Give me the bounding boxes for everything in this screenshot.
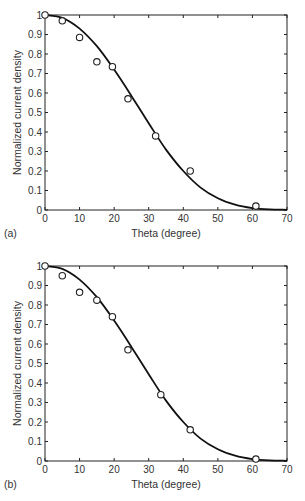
x-tick-label: 60 — [247, 213, 259, 224]
x-tick-label: 0 — [42, 464, 48, 475]
data-point-marker — [253, 456, 259, 462]
plot-frame — [45, 15, 287, 210]
data-point-marker — [59, 18, 65, 24]
x-tick-label: 40 — [178, 213, 190, 224]
x-tick-label: 20 — [109, 213, 121, 224]
x-tick-label: 60 — [247, 464, 259, 475]
y-tick-label: 0.1 — [28, 185, 42, 196]
x-axis-label: Theta (degree) — [131, 227, 200, 239]
y-axis-label: Normalized current density — [11, 300, 23, 426]
y-tick-label: 0.8 — [28, 49, 42, 60]
data-point-marker — [109, 63, 115, 69]
data-point-marker — [42, 263, 48, 269]
y-tick-label: 0.4 — [28, 378, 42, 389]
x-tick-label: 30 — [143, 464, 155, 475]
data-point-marker — [125, 96, 131, 102]
y-axis-label: Normalized current density — [11, 49, 23, 175]
data-point-marker — [94, 59, 100, 65]
data-point-marker — [125, 347, 131, 353]
x-tick-label: 50 — [212, 213, 224, 224]
x-tick-label: 10 — [74, 464, 86, 475]
y-tick-label: 0.2 — [28, 417, 42, 428]
x-tick-label: 30 — [143, 213, 155, 224]
y-tick-label: 0.5 — [28, 107, 42, 118]
y-tick-label: 0.3 — [28, 146, 42, 157]
chart-panel-b: 01020304050607000.10.20.30.40.50.60.70.8… — [0, 251, 305, 501]
y-tick-label: 0.8 — [28, 300, 42, 311]
data-point-marker — [42, 12, 48, 18]
data-point-marker — [76, 34, 82, 40]
x-tick-label: 40 — [178, 464, 190, 475]
data-point-marker — [187, 168, 193, 174]
data-point-marker — [76, 289, 82, 295]
chart-panel-a: 01020304050607000.10.20.30.40.50.60.70.8… — [0, 0, 305, 250]
y-tick-label: 0.6 — [28, 88, 42, 99]
y-tick-label: 0.9 — [28, 280, 42, 291]
data-point-marker — [59, 273, 65, 279]
y-tick-label: 0.5 — [28, 358, 42, 369]
y-tick-label: 0.6 — [28, 339, 42, 350]
data-point-marker — [158, 392, 164, 398]
y-tick-label: 0.7 — [28, 319, 42, 330]
y-tick-label: 0 — [36, 456, 42, 467]
y-tick-label: 0 — [36, 205, 42, 216]
x-tick-label: 20 — [109, 464, 121, 475]
y-tick-label: 0.4 — [28, 127, 42, 138]
fit-curve — [45, 15, 287, 210]
data-point-marker — [253, 203, 259, 209]
data-point-marker — [187, 427, 193, 433]
y-tick-label: 0.3 — [28, 397, 42, 408]
x-tick-label: 50 — [212, 464, 224, 475]
data-point-marker — [94, 297, 100, 303]
data-point-marker — [152, 133, 158, 139]
y-tick-label: 0.9 — [28, 29, 42, 40]
panel-label: (a) — [4, 227, 17, 239]
x-tick-label: 0 — [42, 213, 48, 224]
y-tick-label: 0.7 — [28, 68, 42, 79]
x-tick-label: 10 — [74, 213, 86, 224]
panel-label: (b) — [4, 478, 17, 490]
x-tick-label: 70 — [281, 213, 293, 224]
y-tick-label: 0.1 — [28, 436, 42, 447]
x-tick-label: 70 — [281, 464, 293, 475]
chart-a-svg: 01020304050607000.10.20.30.40.50.60.70.8… — [0, 0, 305, 250]
chart-b-svg: 01020304050607000.10.20.30.40.50.60.70.8… — [0, 251, 305, 501]
y-tick-label: 0.2 — [28, 166, 42, 177]
data-point-marker — [109, 314, 115, 320]
x-axis-label: Theta (degree) — [131, 478, 200, 490]
